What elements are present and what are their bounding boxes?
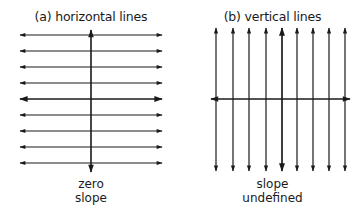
panel-a-caption-line2: slope	[0, 191, 182, 205]
panel-b-caption-line2: undefined	[182, 191, 363, 205]
panel-horizontal-lines: (a) horizontal lines zero slope	[0, 0, 182, 211]
panel-a-caption-line1: zero	[0, 177, 182, 191]
panel-vertical-lines: (b) vertical lines slope undefined	[182, 0, 363, 211]
panel-b-caption-line1: slope	[182, 177, 363, 191]
